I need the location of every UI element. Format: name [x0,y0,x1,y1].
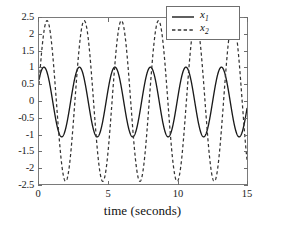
ytick-mark-right [244,185,248,186]
ytick-mark [38,84,42,85]
ytick-label: 1.5 [21,46,34,56]
ytick-label: 1 [29,62,34,72]
xtick-label: 0 [28,188,48,199]
ytick-mark-right [244,34,248,35]
ytick-mark-right [244,51,248,52]
legend-dashed-line-icon [171,25,195,35]
xtick-mark-top [108,18,109,22]
plot-area [38,17,248,185]
series-line-x1 [39,67,247,137]
legend-label-x2-sub: 2 [205,27,209,36]
legend-entry-x2: x2 [171,23,235,36]
ytick-label: 2 [29,29,34,39]
ytick-mark [38,185,42,186]
ytick-mark [38,135,42,136]
ytick-mark-right [244,67,248,68]
curves-svg [39,18,247,184]
ytick-mark-right [244,168,248,169]
ytick-label: 0.5 [21,79,34,89]
xtick-mark [178,181,179,185]
ytick-label: -1.5 [18,146,34,156]
ytick-mark-right [244,151,248,152]
legend-box: x1 x2 [166,6,240,40]
figure-canvas: 2.5 2 1.5 1 0.5 0 -0.5 -1 -1.5 -2 -2.5 0… [0,0,285,231]
xtick-mark-top [38,18,39,22]
ytick-mark [38,101,42,102]
ytick-mark-right [244,118,248,119]
ytick-mark [38,118,42,119]
ytick-label: -2 [26,163,34,173]
ytick-mark [38,67,42,68]
ytick-mark [38,34,42,35]
xtick-mark-top [247,18,248,22]
xtick-mark [38,181,39,185]
xtick-label: 10 [168,188,188,199]
xtick-mark [247,181,248,185]
ytick-mark [38,168,42,169]
xtick-label: 5 [98,188,118,199]
ytick-label: 2.5 [21,12,34,22]
ytick-label: -1 [26,130,34,140]
legend-solid-line-icon [171,12,195,22]
x-axis-title: time (seconds) [0,203,285,219]
xtick-mark [108,181,109,185]
ytick-mark-right [244,101,248,102]
ytick-mark [38,151,42,152]
xtick-label: 15 [237,188,257,199]
ytick-label: 0 [29,96,34,106]
ytick-mark [38,51,42,52]
ytick-label: -0.5 [18,113,34,123]
ytick-mark-right [244,84,248,85]
ytick-mark-right [244,135,248,136]
legend-label-x2: x2 [200,22,209,37]
